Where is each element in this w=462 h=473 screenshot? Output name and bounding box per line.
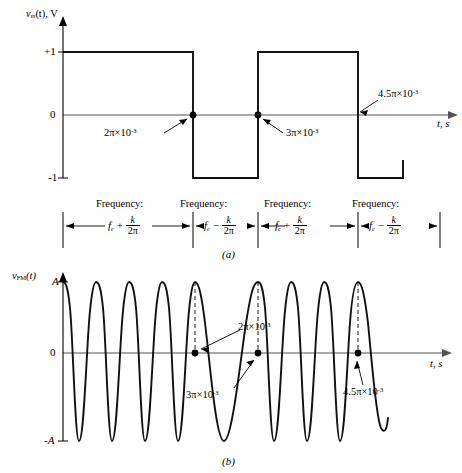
freq-arrowhead-4-left	[361, 223, 369, 229]
panel-a-ytick-plus1: +1	[44, 45, 56, 57]
frequency-expression-3: fc + k2π	[275, 215, 307, 236]
fm-marker-dot-45pi	[355, 350, 362, 357]
frequency-caption-4: Frequency:	[352, 198, 399, 209]
panel-a-annotation-45pi: 4.5π×10-3	[378, 88, 418, 99]
figure-container: vm(t), V +1 0 -1 t, s 2π×10-3 3π×10-3 4.…	[0, 0, 462, 473]
freq-arrowhead-4-right	[429, 223, 437, 229]
panel-a-ytick-zero: 0	[50, 108, 56, 120]
panel-a-annotation-2pi: 2π×10-3	[104, 127, 136, 138]
freq-arrowhead-2-right	[247, 223, 255, 229]
frequency-caption-1: Frequency:	[96, 198, 143, 209]
panel-b-x-arrow	[442, 349, 452, 357]
panel-a-y-arrow	[59, 16, 67, 26]
panel-b-annotation-45pi: 4.5π×10-3	[343, 386, 383, 397]
panel-a-letter: (a)	[222, 248, 235, 260]
frequency-expression-1: fc + k2π	[108, 215, 140, 236]
frequency-caption-3: Frequency:	[264, 198, 311, 209]
panel-b-annotation-3pi: 3π×10-3	[186, 389, 218, 400]
panel-a-annotation-3pi: 3π×10-3	[286, 127, 318, 138]
leader-line-45pi	[360, 100, 378, 112]
freq-arrowhead-1-right	[182, 223, 190, 229]
fm-marker-dot-3pi	[255, 350, 262, 357]
panel-b-plot	[0, 268, 462, 473]
frequency-expression-4: fc − k2π	[369, 215, 401, 236]
panel-b-x-axis-label: t, s	[430, 358, 442, 369]
leader-arrow-2pi	[179, 119, 187, 125]
panel-b-ytick-minusA: -A	[44, 434, 54, 446]
panel-b-annotation-2pi: 2π×10-3	[238, 321, 270, 332]
panel-a-x-axis-label: t, s	[437, 118, 449, 129]
fm-leader-arrow-2pi	[201, 347, 209, 353]
panel-b-ytick-zero: 0	[50, 346, 56, 358]
panel-a-y-axis-label: vm(t), V	[26, 8, 58, 19]
panel-b-y-axis-label: vFM(t)	[12, 270, 36, 281]
panel-a-x-arrow	[448, 111, 458, 119]
fm-waveform	[63, 282, 388, 441]
panel-a-ytick-minus1: -1	[48, 171, 57, 183]
freq-arrowhead-3-left	[261, 223, 269, 229]
frequency-caption-2: Frequency:	[180, 198, 227, 209]
panel-a-plot	[0, 0, 462, 200]
freq-arrowhead-3-right	[347, 223, 355, 229]
freq-arrowhead-2-left	[196, 223, 204, 229]
fm-leader-arrow-45pi	[354, 361, 360, 369]
panel-b-letter: (b)	[222, 455, 235, 467]
marker-dot-3pi	[255, 112, 262, 119]
marker-dot-2pi	[190, 112, 197, 119]
fm-marker-dot-2pi	[192, 350, 199, 357]
fm-leader-arrow-3pi	[246, 360, 254, 366]
freq-arrowhead-1-left	[66, 223, 74, 229]
panel-b-ytick-A: A	[52, 275, 59, 287]
panel-b-y-arrow	[59, 272, 67, 282]
frequency-expression-2: fc − k2π	[204, 215, 236, 236]
